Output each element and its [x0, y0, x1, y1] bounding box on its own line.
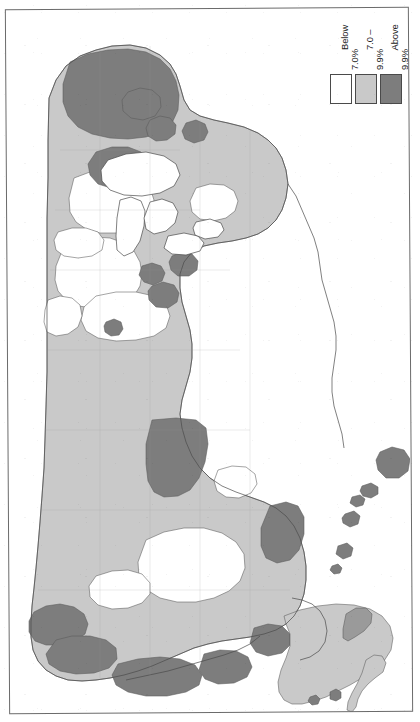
map-canvas — [0, 0, 420, 722]
legend-swatch-below — [330, 74, 352, 104]
above-region-coastal-south-e — [250, 624, 290, 656]
above-region-ne-blob-d — [182, 120, 208, 143]
legend-label-above-line2: 9.9% — [400, 10, 411, 70]
hawaii-island-hawaii — [376, 447, 410, 478]
above-region-coastal-south-b — [46, 636, 117, 674]
legend-entry-below: Below7.0% — [329, 10, 355, 106]
legend: Below7.0% 7.0 –9.9% Above9.9% — [326, 10, 416, 106]
legend-entry-mid: 7.0 –9.9% — [354, 10, 380, 106]
legend-entry-above: Above9.9% — [379, 10, 405, 106]
hawaii-island-molokai — [350, 495, 365, 507]
map-layers — [29, 45, 410, 712]
hawaii-island-oahu — [342, 511, 360, 527]
atlantic-seaboard-detail — [288, 184, 344, 448]
legend-label-below-line1: Below — [339, 25, 350, 50]
below-region-mid-right — [214, 466, 257, 498]
legend-label-above-line1: Above — [389, 24, 400, 50]
legend-label-mid: 7.0 –9.9% — [354, 10, 380, 70]
legend-label-above: Above9.9% — [379, 10, 405, 70]
legend-label-below: Below7.0% — [329, 10, 355, 70]
above-region-coastal-south-c — [112, 657, 202, 696]
hawaii-island-maui — [360, 483, 378, 498]
choropleth-figure: Below7.0% 7.0 –9.9% Above9.9% — [0, 0, 420, 722]
hawaii-island-kauai — [336, 543, 353, 559]
hawaii-group — [330, 447, 410, 574]
hawaii-island-niihau — [330, 564, 342, 574]
alaska-group — [278, 604, 393, 712]
above-region-speck-a — [104, 319, 123, 336]
map-svg — [0, 0, 420, 722]
legend-label-mid-line1: 7.0 – — [364, 30, 375, 50]
legend-swatch-mid — [355, 74, 377, 104]
below-region-corridor — [54, 228, 104, 258]
below-region-southwest — [89, 570, 150, 609]
above-region-coastal-south-d — [199, 650, 252, 684]
legend-swatch-above — [380, 74, 402, 104]
above-region-upper-edge — [122, 88, 161, 120]
below-region-central — [138, 528, 245, 602]
